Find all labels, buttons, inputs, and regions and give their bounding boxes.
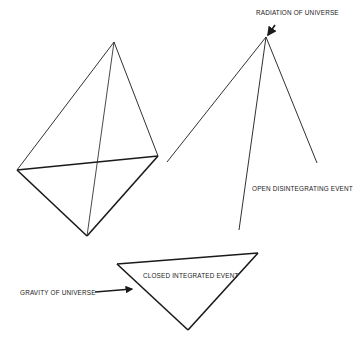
closed-event-triangle <box>117 253 258 330</box>
tetra-edge-left-bottom <box>17 170 87 236</box>
open-event-lines <box>167 37 317 230</box>
tetra-edge-apex-bottom <box>87 42 114 236</box>
tetrahedron <box>17 42 158 236</box>
gravity-arrow-icon <box>95 289 132 292</box>
closed-edge-right <box>188 253 258 330</box>
tetra-edge-apex-right <box>114 42 158 156</box>
tetra-edge-right-bottom <box>87 156 158 236</box>
closed-event-label: CLOSED INTEGRATED EVENT <box>143 271 239 280</box>
tetra-edge-apex-left <box>17 42 114 170</box>
open-line-right <box>266 37 317 163</box>
open-event-label: OPEN DISINTEGRATING EVENT <box>252 184 353 193</box>
closed-edge-top <box>117 253 258 264</box>
radiation-arrow-icon <box>268 25 275 35</box>
gravity-label: GRAVITY OF UNIVERSE <box>20 288 96 297</box>
tetra-edge-left-right <box>17 156 158 170</box>
radiation-label: RADIATION OF UNIVERSE <box>256 8 339 17</box>
